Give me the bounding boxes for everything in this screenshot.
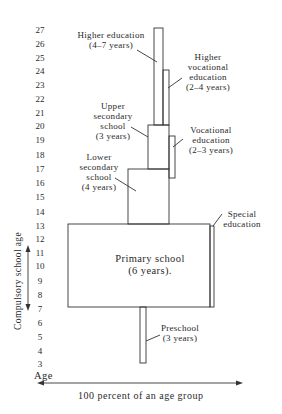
- tick-9: 9: [32, 276, 48, 286]
- compulsory-arrow-up-icon: [26, 245, 31, 252]
- tick-14: 14: [32, 207, 48, 217]
- upper-secondary-label: Upper secondary school (3 years): [90, 101, 136, 141]
- tick-22: 22: [32, 94, 48, 104]
- tick-19: 19: [32, 135, 48, 145]
- tick-17: 17: [32, 164, 48, 174]
- vocational-label: Vocational education (2–3 years): [180, 125, 242, 155]
- tick-5: 5: [32, 332, 48, 342]
- tick-11: 11: [32, 248, 48, 258]
- tick-25: 25: [32, 53, 48, 63]
- x-axis-arrow-left-icon: [37, 381, 44, 386]
- tick-8: 8: [32, 290, 48, 300]
- primary-school-label: Primary school (6 years).: [100, 253, 200, 277]
- tick-10: 10: [32, 261, 48, 271]
- preschool-label: Preschool (3 years): [155, 323, 205, 343]
- higher-vocational-bar: [163, 70, 169, 125]
- tick-13: 13: [32, 221, 48, 231]
- tick-21: 21: [32, 108, 48, 118]
- special-education-label: Special education: [216, 209, 268, 229]
- tick-16: 16: [32, 178, 48, 188]
- x-axis-label: 100 percent of an age group: [78, 390, 203, 401]
- age-axis-label: Age: [34, 370, 53, 381]
- tick-18: 18: [32, 150, 48, 160]
- tick-26: 26: [32, 39, 48, 49]
- tick-27: 27: [32, 25, 48, 35]
- higher-education-bar: [154, 28, 163, 125]
- upper-secondary-bar: [148, 125, 169, 169]
- compulsory-age-label: Compulsory school age: [13, 232, 23, 330]
- tick-6: 6: [32, 318, 48, 328]
- higher-vocational-label: Higher vocational education (2–4 years): [176, 52, 240, 92]
- special-education-bar: [210, 226, 214, 307]
- lower-secondary-label: Lower secondary school (4 years): [74, 152, 124, 192]
- higher-education-label: Higher education (4–7 years): [74, 30, 148, 50]
- tick-4: 4: [32, 346, 48, 356]
- tick-23: 23: [32, 80, 48, 90]
- tick-15: 15: [32, 192, 48, 202]
- preschool-bar: [140, 307, 146, 363]
- tick-24: 24: [32, 66, 48, 76]
- tick-7: 7: [32, 304, 48, 314]
- tick-12: 12: [32, 234, 48, 244]
- lower-secondary-bar: [128, 169, 169, 224]
- tick-3: 3: [32, 359, 48, 369]
- tick-20: 20: [32, 121, 48, 131]
- vocational-bar: [169, 136, 175, 178]
- x-axis-arrow-right-icon: [236, 381, 243, 386]
- compulsory-arrow-down-icon: [26, 304, 31, 311]
